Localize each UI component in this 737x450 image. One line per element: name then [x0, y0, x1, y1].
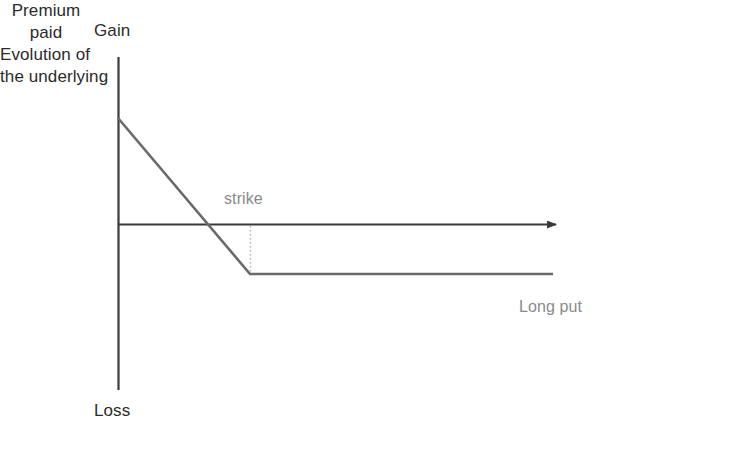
- series-label-long-put: Long put: [519, 296, 582, 318]
- long-put-payoff-line: [118, 118, 553, 274]
- payoff-diagram-figure: Gain Loss Premium paid strike Evolution …: [0, 0, 737, 450]
- payoff-plot-area: [0, 0, 737, 450]
- y-axis-gain-label: Gain: [94, 20, 130, 42]
- strike-label: strike: [224, 188, 263, 210]
- y-axis-loss-label: Loss: [94, 400, 130, 422]
